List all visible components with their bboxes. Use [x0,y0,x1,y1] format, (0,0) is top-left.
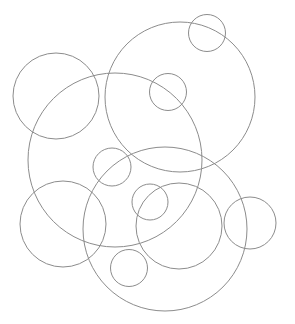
circle-right [224,197,276,249]
circle-upper-center-small [150,74,187,111]
circles-canvas [0,0,295,324]
circle-bottom-small [111,250,148,287]
circle-bottom-left [20,181,106,267]
circle-mid-bottom [136,183,222,269]
circle-big-bottom [83,147,247,311]
circle-big-middle-left [28,73,202,247]
circle-big-upper-right [105,22,255,172]
circles-diagram [0,0,295,324]
